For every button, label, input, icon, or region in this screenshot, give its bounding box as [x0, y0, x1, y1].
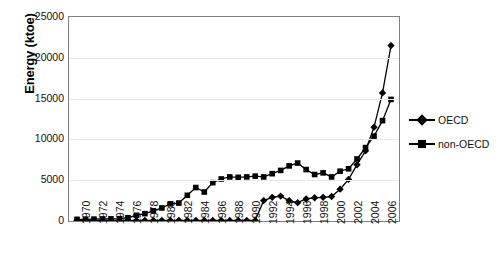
data-point-oecd [387, 42, 394, 49]
gridline [69, 99, 399, 100]
data-point-non-oecd [346, 166, 352, 172]
data-point-non-oecd [91, 216, 97, 221]
x-tick-label: 1984 [199, 201, 211, 224]
x-tick-label: 1970 [80, 201, 92, 224]
data-point-oecd [277, 192, 284, 199]
plot-area [68, 16, 400, 222]
legend-marker-square-icon [409, 138, 435, 150]
x-tick-label: 1990 [250, 201, 262, 224]
legend-item-non-oecd[interactable]: non-OECD [409, 132, 498, 156]
x-tick-label: 2006 [386, 201, 398, 224]
x-tick-label: 2002 [352, 201, 364, 224]
y-axis-tick-labels: 0500010000150002000025000 [18, 0, 64, 271]
gridline [69, 139, 399, 140]
data-point-non-oecd [295, 160, 301, 166]
data-point-non-oecd [74, 217, 80, 221]
data-point-non-oecd [278, 168, 284, 174]
x-tick-label: 1986 [216, 201, 228, 224]
x-tick-label: 1988 [233, 201, 245, 224]
data-point-oecd [379, 89, 386, 96]
data-point-non-oecd [354, 156, 360, 162]
x-tick-label: 1996 [301, 201, 313, 224]
data-point-non-oecd [371, 133, 377, 139]
plot-svg [69, 17, 399, 221]
y-tick-label: 0 [20, 215, 64, 225]
data-point-non-oecd [380, 118, 386, 124]
y-tick-label: 15000 [20, 93, 64, 103]
data-point-non-oecd [303, 167, 309, 173]
legend-item-oecd[interactable]: OECD [409, 108, 498, 132]
data-point-oecd [370, 123, 377, 130]
x-tick-label: 1978 [148, 201, 160, 224]
data-point-non-oecd [320, 170, 326, 176]
data-point-non-oecd [269, 171, 275, 177]
gridline [69, 58, 399, 59]
x-tick-label: 2004 [369, 201, 381, 224]
x-axis-tick-labels: 1970197219741976197819801982198419861988… [68, 224, 400, 271]
y-tick-label: 25000 [20, 11, 64, 21]
y-tick-label: 5000 [20, 174, 64, 184]
data-point-non-oecd [202, 189, 208, 195]
legend-label: OECD [435, 114, 468, 126]
data-point-non-oecd [337, 168, 343, 174]
x-tick-label: 1998 [318, 201, 330, 224]
x-tick-label: 1976 [131, 201, 143, 224]
data-point-non-oecd [193, 185, 199, 191]
data-point-non-oecd [363, 145, 369, 151]
data-point-non-oecd [227, 174, 233, 180]
data-point-non-oecd [261, 174, 267, 180]
x-tick-label: 1994 [284, 201, 296, 224]
legend-marker-diamond-icon [409, 114, 435, 126]
data-point-non-oecd [312, 172, 318, 178]
x-tick-label: 1974 [114, 201, 126, 224]
x-tick-label: 2000 [335, 201, 347, 224]
x-tick-label: 1992 [267, 201, 279, 224]
gridline [69, 180, 399, 181]
data-point-non-oecd [286, 163, 292, 169]
y-tick-label: 20000 [20, 52, 64, 62]
data-point-non-oecd [244, 174, 250, 180]
y-tick-label: 10000 [20, 133, 64, 143]
energy-line-chart: Energy (ktoe) 0500010000150002000025000 … [0, 0, 498, 271]
data-point-non-oecd [185, 193, 191, 199]
legend-label: non-OECD [435, 138, 489, 150]
x-tick-label: 1972 [97, 201, 109, 224]
chart-legend: OECDnon-OECD [409, 108, 498, 156]
x-tick-label: 1980 [165, 201, 177, 224]
data-point-non-oecd [252, 173, 258, 179]
x-tick-label: 1982 [182, 201, 194, 224]
series-line-oecd [77, 46, 391, 221]
data-point-non-oecd [329, 174, 335, 180]
